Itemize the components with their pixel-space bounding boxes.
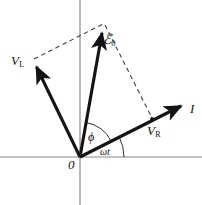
label-omega-t: ωt xyxy=(100,147,110,157)
label-v-r-subscript: R xyxy=(155,130,161,139)
phasor-diagram-canvas xyxy=(0,0,202,205)
label-emf-subscript: 0 xyxy=(111,38,116,48)
dashed-line-vl-to-emf xyxy=(34,24,103,59)
vector-v-l xyxy=(37,67,81,157)
label-v-r-main: V xyxy=(147,123,155,138)
label-emf-main: ℰ xyxy=(103,31,111,47)
label-v-l-subscript: L xyxy=(19,60,24,69)
label-current: I xyxy=(190,102,194,115)
label-v-r: VR xyxy=(147,124,161,137)
v-r-point-marker xyxy=(150,117,154,121)
label-origin: 0 xyxy=(68,158,75,171)
label-v-l-main: V xyxy=(11,53,19,68)
vector-i xyxy=(80,106,181,157)
label-v-l: VL xyxy=(11,54,24,67)
phasor-diagram-figure: VL ℰ0 I VR ϕ ωt 0 xyxy=(0,0,202,205)
label-phi: ϕ xyxy=(88,131,94,143)
omega-t-arc xyxy=(119,137,124,157)
label-emf: ℰ0 xyxy=(103,32,116,47)
